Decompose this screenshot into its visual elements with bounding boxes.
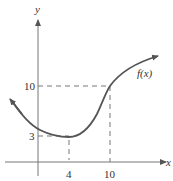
x-tick-4: 4 — [66, 168, 72, 180]
dashed-guides — [38, 86, 110, 162]
y-axis-label: y — [34, 3, 40, 15]
function-graph: y x f(x) 10 3 4 10 — [0, 0, 173, 181]
curve-label: f(x) — [137, 67, 153, 80]
x-tick-10: 10 — [104, 168, 116, 180]
curve-left-arrow — [10, 99, 22, 114]
y-tick-3: 3 — [29, 130, 35, 142]
x-axis-label: x — [165, 156, 171, 168]
y-tick-10: 10 — [24, 80, 36, 92]
